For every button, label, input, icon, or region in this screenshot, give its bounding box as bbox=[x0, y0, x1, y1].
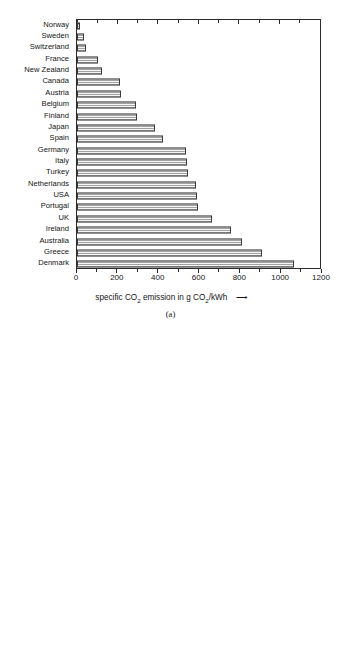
category-label-text: Canada bbox=[42, 78, 69, 86]
x-tick bbox=[300, 269, 301, 272]
bar-row bbox=[77, 31, 320, 42]
category-label-text: Austria bbox=[45, 89, 69, 97]
category-label-a-usa: USA bbox=[0, 189, 72, 200]
bar-a-japan bbox=[77, 124, 155, 131]
category-label-text: Norway bbox=[43, 21, 69, 29]
category-label-a-ireland: Ireland bbox=[0, 223, 72, 234]
bar-a-austria bbox=[77, 90, 121, 97]
bar-row bbox=[77, 20, 320, 31]
category-label-text: Australia bbox=[39, 237, 69, 245]
category-label-text: Belgium bbox=[42, 100, 69, 108]
category-label-a-belgium: Belgium bbox=[0, 99, 72, 110]
bar-row bbox=[77, 65, 320, 76]
chart-a-category-labels: NorwaySwedenSwitzerlandFranceNew Zealand… bbox=[0, 19, 72, 269]
category-label-a-turkey: Turkey bbox=[0, 167, 72, 178]
xlabel-a-mid: emission in g CO bbox=[141, 293, 206, 302]
bar-a-usa bbox=[77, 193, 197, 200]
category-label-a-denmark: Denmark bbox=[0, 258, 72, 269]
bar-a-switzerland bbox=[77, 45, 86, 52]
category-label-a-canada: Canada bbox=[0, 76, 72, 87]
bar-row bbox=[77, 54, 320, 65]
figure-a-specific-co2-emission: NorwaySwedenSwitzerlandFranceNew Zealand… bbox=[0, 0, 341, 330]
category-label-text: Italy bbox=[55, 157, 69, 165]
chart-a-x-axis-title-text: specific CO2 emission in g CO2/kWh bbox=[95, 293, 229, 302]
bar-a-turkey bbox=[77, 170, 188, 177]
x-tick-label: 600 bbox=[192, 274, 205, 282]
x-tick bbox=[218, 269, 219, 272]
category-label-text: Turkey bbox=[46, 169, 69, 177]
bar-row bbox=[77, 88, 320, 99]
category-label-text: Denmark bbox=[38, 259, 69, 267]
category-label-a-germany: Germany bbox=[0, 144, 72, 155]
category-label-text: Ireland bbox=[46, 225, 69, 233]
category-label-text: Netherlands bbox=[28, 180, 69, 188]
bar-row bbox=[77, 77, 320, 88]
x-tick-label: 800 bbox=[233, 274, 246, 282]
x-tick bbox=[137, 269, 138, 272]
bar-row bbox=[77, 236, 320, 247]
category-label-text: UK bbox=[58, 214, 69, 222]
bar-a-germany bbox=[77, 147, 186, 154]
bar-row bbox=[77, 224, 320, 235]
category-label-a-portugal: Portugal bbox=[0, 201, 72, 212]
category-label-text: Japan bbox=[48, 123, 69, 131]
category-label-a-uk: UK bbox=[0, 212, 72, 223]
category-label-a-sweden: Sweden bbox=[0, 30, 72, 41]
x-tick-label: 1200 bbox=[312, 274, 330, 282]
chart-a-bars bbox=[77, 20, 320, 268]
xlabel-a-pre: specific CO bbox=[95, 293, 137, 302]
bar-a-sweden bbox=[77, 34, 84, 41]
bar-a-portugal bbox=[77, 204, 198, 211]
category-label-text: France bbox=[45, 55, 69, 63]
bar-row bbox=[77, 122, 320, 133]
category-label-text: Greece bbox=[44, 248, 69, 256]
category-label-a-spain: Spain bbox=[0, 133, 72, 144]
chart-a-x-axis: 020040060080010001200 bbox=[76, 269, 321, 287]
figure-a-caption: (a) bbox=[0, 309, 341, 319]
category-label-a-new-zealand: New Zealand bbox=[0, 64, 72, 75]
category-label-a-australia: Australia bbox=[0, 235, 72, 246]
category-label-text: Sweden bbox=[42, 32, 69, 40]
category-label-text: USA bbox=[53, 191, 69, 199]
bar-a-ireland bbox=[77, 227, 231, 234]
bar-row bbox=[77, 213, 320, 224]
bar-a-new-zealand bbox=[77, 68, 102, 75]
bar-row bbox=[77, 247, 320, 258]
category-label-a-switzerland: Switzerland bbox=[0, 42, 72, 53]
bar-a-denmark bbox=[77, 261, 294, 268]
category-label-a-japan: Japan bbox=[0, 121, 72, 132]
bar-a-spain bbox=[77, 136, 163, 143]
x-tick-label: 200 bbox=[110, 274, 123, 282]
bar-row bbox=[77, 100, 320, 111]
chart-a-x-axis-title: specific CO2 emission in g CO2/kWh ⟶ bbox=[0, 292, 341, 304]
bar-a-australia bbox=[77, 238, 242, 245]
bar-row bbox=[77, 179, 320, 190]
category-label-text: Finland bbox=[44, 112, 69, 120]
x-tick-label: 1000 bbox=[271, 274, 289, 282]
bar-a-france bbox=[77, 56, 98, 63]
bar-a-norway bbox=[77, 22, 80, 29]
bar-row bbox=[77, 202, 320, 213]
bar-a-italy bbox=[77, 158, 187, 165]
category-label-a-netherlands: Netherlands bbox=[0, 178, 72, 189]
category-label-a-austria: Austria bbox=[0, 87, 72, 98]
category-label-text: New Zealand bbox=[24, 66, 69, 74]
x-tick-label: 0 bbox=[74, 274, 78, 282]
category-label-a-norway: Norway bbox=[0, 19, 72, 30]
category-label-a-finland: Finland bbox=[0, 110, 72, 121]
bar-row bbox=[77, 156, 320, 167]
chart-a-plot-area bbox=[76, 19, 321, 269]
category-label-text: Switzerland bbox=[30, 44, 69, 52]
bar-row bbox=[77, 111, 320, 122]
bar-row bbox=[77, 168, 320, 179]
bar-a-netherlands bbox=[77, 181, 196, 188]
xlabel-a-post: /kWh bbox=[209, 293, 228, 302]
category-label-text: Germany bbox=[38, 146, 69, 154]
x-tick bbox=[259, 269, 260, 272]
x-tick bbox=[178, 269, 179, 272]
category-label-a-france: France bbox=[0, 53, 72, 64]
bar-a-finland bbox=[77, 113, 137, 120]
bar-a-canada bbox=[77, 79, 120, 86]
bar-row bbox=[77, 134, 320, 145]
bar-row bbox=[77, 145, 320, 156]
